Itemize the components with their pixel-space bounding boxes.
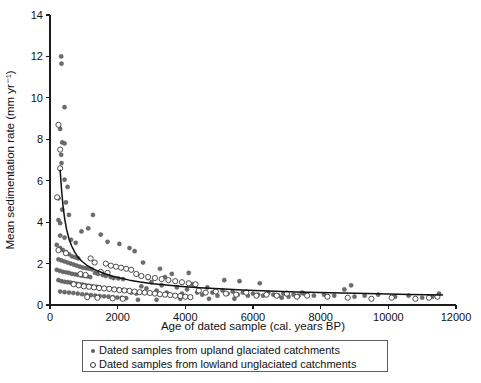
data-point-lowland: [369, 296, 374, 301]
data-point-upland: [74, 241, 78, 245]
data-point-lowland: [71, 282, 76, 287]
x-tick-label: 12000: [441, 311, 472, 323]
data-point-upland: [141, 260, 145, 264]
data-point-lowland: [81, 284, 86, 289]
data-point-upland: [62, 290, 66, 294]
data-point-upland: [258, 281, 262, 285]
data-point-upland: [185, 287, 189, 291]
data-point-upland: [58, 221, 62, 225]
data-point-lowland: [305, 293, 310, 298]
data-point-upland: [117, 242, 121, 246]
data-point-lowland: [325, 294, 330, 299]
data-point-lowland: [159, 277, 164, 282]
legend-label-lowland: Dated samples from lowland unglaciated c…: [99, 358, 356, 371]
data-point-upland: [86, 226, 90, 230]
data-point-upland: [62, 141, 66, 145]
data-point-lowland: [183, 294, 188, 299]
data-point-upland: [222, 278, 226, 282]
data-point-lowland: [122, 288, 127, 293]
data-point-upland: [352, 295, 356, 299]
data-point-lowland: [88, 256, 93, 261]
x-axis-title: Age of dated sample (cal. years BP): [161, 320, 345, 332]
data-points-layer: [55, 54, 442, 302]
y-tick-label: 14: [31, 9, 43, 21]
data-point-lowland: [113, 264, 118, 269]
data-point-upland: [91, 213, 95, 217]
data-point-upland: [342, 287, 346, 291]
data-point-lowland: [233, 292, 238, 297]
data-point-lowland: [107, 286, 112, 291]
data-point-upland: [132, 249, 136, 253]
data-point-lowland: [178, 293, 183, 298]
data-point-upland: [59, 62, 63, 66]
data-point-lowland: [56, 248, 61, 253]
data-point-upland: [332, 294, 336, 298]
data-point-lowland: [86, 284, 91, 289]
data-point-lowland: [389, 295, 394, 300]
data-point-lowland: [166, 278, 171, 283]
data-point-lowland: [95, 295, 100, 300]
data-point-upland: [207, 297, 211, 301]
data-point-lowland: [223, 291, 228, 296]
legend-item-lowland: Dated samples from lowland unglaciated c…: [88, 358, 387, 371]
data-point-lowland: [83, 272, 88, 277]
data-point-lowland: [168, 292, 173, 297]
data-point-lowland: [56, 122, 61, 127]
chart-figure: 02468101214020004000600080001000012000 A…: [0, 0, 481, 383]
y-tick-label: 2: [37, 258, 43, 270]
data-point-lowland: [103, 261, 108, 266]
data-point-lowland: [152, 275, 157, 280]
data-point-lowland: [426, 295, 431, 300]
y-tick-label: 6: [37, 175, 43, 187]
data-point-lowland: [413, 296, 418, 301]
data-point-lowland: [134, 271, 139, 276]
data-point-upland: [62, 178, 66, 182]
data-point-lowland: [274, 293, 279, 298]
data-point-lowland: [117, 287, 122, 292]
data-point-lowland: [118, 265, 123, 270]
y-tick-label: 8: [37, 133, 43, 145]
y-tick-label: 0: [37, 299, 43, 311]
data-point-lowland: [152, 291, 157, 296]
axes-layer: [50, 15, 456, 305]
data-point-lowland: [112, 287, 117, 292]
data-point-lowland: [213, 289, 218, 294]
data-point-lowland: [179, 280, 184, 285]
y-axis-title: Mean sedimentation rate (mm yr⁻¹): [4, 70, 16, 249]
data-point-lowland: [63, 251, 68, 256]
data-point-upland: [67, 290, 71, 294]
data-point-lowland: [345, 295, 350, 300]
data-point-upland: [349, 283, 353, 287]
data-point-lowland: [127, 288, 132, 293]
data-point-upland: [59, 153, 63, 157]
data-point-lowland: [129, 267, 134, 272]
data-point-lowland: [294, 294, 299, 299]
scatter-plot: 02468101214020004000600080001000012000 A…: [0, 0, 481, 383]
data-point-upland: [280, 296, 284, 300]
data-point-lowland: [193, 282, 198, 287]
data-point-upland: [170, 272, 174, 276]
data-point-lowland: [55, 195, 60, 200]
data-point-lowland: [91, 285, 96, 290]
data-point-lowland: [173, 293, 178, 298]
data-point-upland: [80, 292, 84, 296]
data-point-upland: [102, 294, 106, 298]
data-point-upland: [88, 275, 92, 279]
data-point-lowland: [203, 290, 208, 295]
data-point-upland: [67, 213, 71, 217]
data-point-upland: [59, 161, 63, 165]
data-point-upland: [62, 105, 66, 109]
data-point-upland: [65, 185, 69, 189]
tick-labels-layer: 02468101214020004000600080001000012000: [31, 9, 472, 323]
data-point-lowland: [162, 292, 167, 297]
data-point-lowland: [264, 292, 269, 297]
data-point-upland: [139, 284, 143, 288]
data-point-lowland: [137, 290, 142, 295]
data-point-lowland: [132, 289, 137, 294]
data-point-upland: [105, 240, 109, 244]
data-point-upland: [64, 200, 68, 204]
data-point-lowland: [120, 296, 125, 301]
data-point-upland: [99, 232, 103, 236]
data-point-lowland: [108, 263, 113, 268]
data-point-upland: [420, 296, 424, 300]
